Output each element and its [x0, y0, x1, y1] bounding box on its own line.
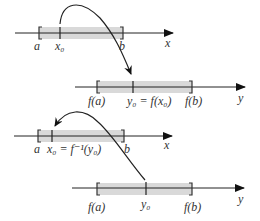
- label-x0-eq: x₀ = f⁻¹(y₀): [46, 142, 101, 156]
- label-x0: x₀: [54, 39, 65, 53]
- label-fa: f(a): [88, 94, 105, 108]
- label-y0-eq: y₀ = f(x₀): [126, 94, 171, 108]
- label-x-axis: x: [164, 36, 171, 50]
- label-y-axis-2: y: [237, 192, 244, 206]
- label-fb-2: f(b): [184, 200, 201, 214]
- label-fa-2: f(a): [88, 200, 105, 214]
- panel2-x-axis: a x₀ = f⁻¹(y₀) b x: [14, 130, 172, 156]
- label-y0: y₀: [140, 197, 151, 211]
- inverse-function-diagram: a x₀ b x f(a) y₀ = f(x₀) f(b) y a x₀ = f…: [0, 0, 260, 221]
- panel1-y-axis: f(a) y₀ = f(x₀) f(b) y: [75, 81, 245, 108]
- panel1-x-axis: a x₀ b x: [15, 27, 173, 53]
- label-x-axis-2: x: [163, 138, 170, 152]
- panel2-y-axis: f(a) y₀ f(b) y: [72, 182, 244, 214]
- label-fb: f(b): [185, 94, 202, 108]
- label-a: a: [34, 39, 40, 53]
- label-y-axis: y: [237, 91, 244, 105]
- label-b: b: [119, 39, 125, 53]
- label-a-2: a: [34, 142, 40, 156]
